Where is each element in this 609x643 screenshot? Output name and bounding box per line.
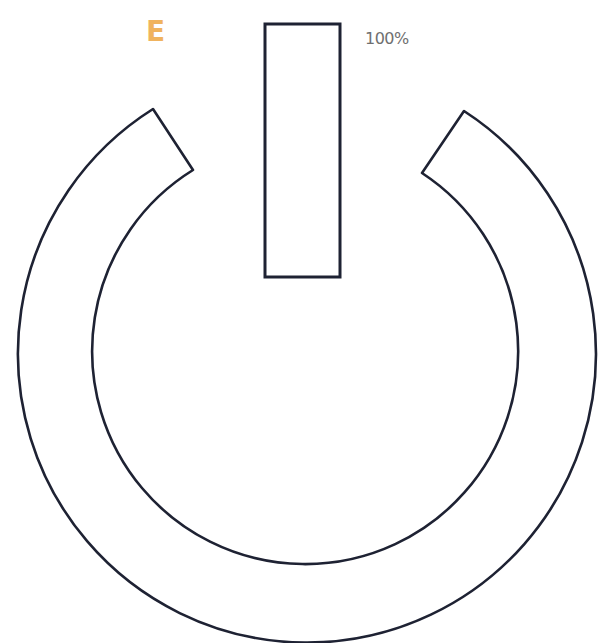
power-bar [265, 24, 340, 277]
power-icon [0, 0, 609, 643]
power-ring [18, 109, 596, 643]
